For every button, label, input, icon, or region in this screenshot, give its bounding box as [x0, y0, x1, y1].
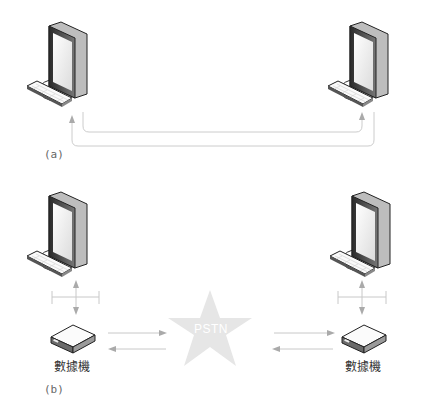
- link-arrows-left: [108, 333, 166, 349]
- modem-left-label: 數據機: [42, 357, 102, 374]
- arrow-left-icon: [272, 346, 280, 352]
- arrow-right-icon: [327, 330, 335, 336]
- computer-a-right: [328, 22, 388, 107]
- panel-a-label: (a): [44, 148, 64, 161]
- computer-a-left: [27, 22, 87, 107]
- modem-right-icon: [342, 325, 386, 353]
- link-arrows-right: [274, 333, 333, 349]
- direct-link-paths: [72, 112, 374, 146]
- serial-link-left: [52, 284, 99, 311]
- computer-b-left: [27, 192, 87, 277]
- arrow-left-icon: [108, 346, 116, 352]
- serial-link-right: [338, 284, 386, 311]
- modem-left-icon: [51, 325, 95, 353]
- diagram-canvas: [0, 0, 421, 416]
- panel-b-label: (b): [44, 383, 64, 396]
- arrowheads-a: [69, 112, 365, 123]
- pstn-label: PSTN: [194, 322, 228, 336]
- computer-b-right: [330, 192, 390, 277]
- arrow-up-left-icon: [69, 115, 75, 123]
- arrow-up-right-icon: [359, 112, 365, 120]
- modem-right-label: 數據機: [333, 357, 393, 374]
- arrow-right-icon: [159, 330, 167, 336]
